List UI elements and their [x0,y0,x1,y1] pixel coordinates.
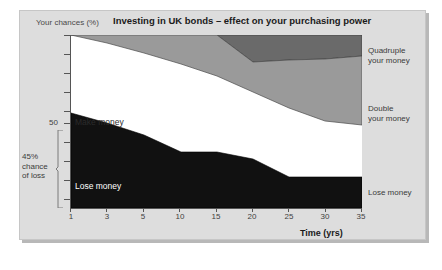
x-tick-label: 15 [212,212,221,221]
x-tick-label: 20 [248,212,257,221]
x-axis-label: Time (yrs) [300,228,343,238]
chart-title: Investing in UK bonds – effect on your p… [113,15,371,26]
legend-label-quadruple-line1: Quadruple [368,46,410,56]
y-tick-mark-50 [64,123,70,124]
legend-label-double-line2: your money [368,114,410,124]
y-tick-mark [64,161,70,162]
y-tick-mark [64,92,70,93]
x-tick-label: 35 [357,212,366,221]
legend-label-lose-money: Lose money [368,188,412,198]
annotation-make-money: Make money [75,117,124,127]
legend-label-quadruple: Quadruple your money [368,46,410,66]
y-tick-mark [64,54,70,55]
y-tick-mark [64,199,70,200]
y-tick-mark [64,73,70,74]
y-tick-mark [64,142,70,143]
x-axis-tick-labels: 1 3 5 10 15 20 25 30 35 [70,212,361,226]
legend-label-double: Double your money [368,104,410,124]
x-tick-label: 3 [105,212,109,221]
y-axis-label: Your chances (%) [36,18,99,27]
x-tick-label: 10 [176,212,185,221]
chart-figure: 1 3 5 10 15 20 25 30 35 50 Your chances … [0,0,442,270]
x-tick-label: 5 [141,212,145,221]
legend-label-quadruple-line2: your money [368,56,410,66]
y-tick-mark [64,35,70,36]
x-tick-label: 30 [321,212,330,221]
x-tick-label: 1 [69,212,73,221]
loss-bracket-caption-line1: 45% [22,152,56,162]
x-tick-label: 25 [285,212,294,221]
loss-bracket-caption-line3: of loss [22,171,56,181]
annotation-lose-money: Lose money [75,181,121,191]
y-tick-label-50: 50 [49,118,58,127]
legend-label-double-line1: Double [368,104,410,114]
y-tick-mark [64,111,70,112]
y-tick-mark [64,180,70,181]
loss-bracket-caption-line2: chance [22,162,56,172]
loss-bracket-icon [56,130,64,208]
loss-bracket-caption: 45% chance of loss [22,152,56,181]
